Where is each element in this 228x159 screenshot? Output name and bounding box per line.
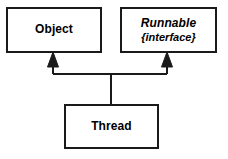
class-name-object: Object <box>35 23 73 37</box>
class-box-thread[interactable]: Thread <box>64 104 159 149</box>
generalization-arrowhead-object <box>48 52 59 67</box>
uml-class-diagram: Object Runnable {interface} Thread <box>0 0 228 159</box>
class-box-object[interactable]: Object <box>6 7 102 53</box>
realization-arrowhead-runnable <box>162 52 173 67</box>
class-name-thread: Thread <box>91 120 132 134</box>
class-stereotype-runnable: {interface} <box>141 31 195 44</box>
class-box-runnable[interactable]: Runnable {interface} <box>120 7 217 53</box>
class-name-runnable: Runnable <box>141 17 196 31</box>
